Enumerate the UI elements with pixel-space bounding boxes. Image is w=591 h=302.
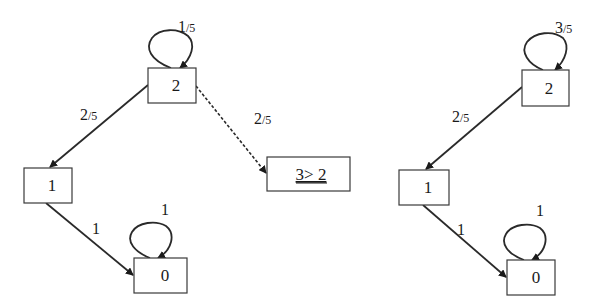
edge-0-to-0-self-loop — [504, 225, 546, 260]
state-node-0: 0 — [507, 260, 555, 295]
right-graph: 3/5 2/5 1 1 2 1 0 — [399, 19, 572, 295]
state-node-2: 2 — [148, 68, 196, 103]
edge-1-to-0 — [423, 205, 506, 277]
state-node-3-greater-than-2: 3> 2 — [267, 157, 350, 191]
edge-label-2-to-2: 3/5 — [555, 19, 572, 36]
edge-label-1-to-0: 1 — [92, 220, 100, 237]
edge-2-to-2-self-loop — [149, 30, 192, 68]
state-label-1: 1 — [424, 178, 433, 197]
edge-label-0-to-0: 1 — [536, 202, 544, 219]
edge-label-1-to-0: 1 — [457, 221, 465, 238]
markov-chain-diagram: 1/5 2/5 2/5 1 1 2 1 0 3> 2 — [0, 0, 591, 302]
state-label-0: 0 — [532, 268, 541, 287]
edge-2-to-2-self-loop — [524, 33, 566, 70]
edge-2-to-1 — [426, 87, 522, 169]
edge-2-to-3gt2 — [196, 86, 266, 173]
edge-label-2-to-1: 2/5 — [452, 108, 469, 125]
edge-2-to-1 — [50, 85, 148, 167]
state-label-2: 2 — [172, 76, 181, 95]
state-node-1: 1 — [24, 168, 72, 203]
edge-0-to-0-self-loop — [130, 223, 171, 258]
state-label-2: 2 — [545, 79, 554, 98]
state-label-1: 1 — [48, 176, 57, 195]
state-label-0: 0 — [161, 266, 170, 285]
state-node-2: 2 — [522, 70, 569, 106]
state-node-0: 0 — [134, 258, 187, 293]
edge-label-2-to-3gt2: 2/5 — [254, 110, 271, 127]
edge-label-2-to-2: 1/5 — [178, 18, 195, 35]
state-label-3gt2: 3> 2 — [296, 165, 327, 184]
left-graph: 1/5 2/5 2/5 1 1 2 1 0 3> 2 — [24, 18, 350, 293]
edge-label-2-to-1: 2/5 — [80, 106, 97, 123]
edge-1-to-0 — [46, 203, 133, 275]
state-node-1: 1 — [399, 170, 449, 205]
edge-label-0-to-0: 1 — [161, 201, 169, 218]
